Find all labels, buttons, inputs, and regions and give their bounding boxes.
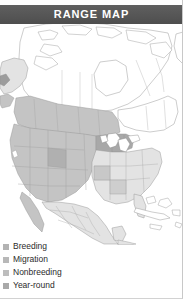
legend-swatch-breeding (3, 244, 9, 250)
range-map-graphic (0, 0, 183, 245)
legend-swatch-migration (3, 257, 9, 263)
legend-label-migration: Migration (13, 255, 48, 264)
page-title: RANGE MAP (54, 9, 129, 20)
legend-swatch-year-round (3, 283, 9, 289)
area-greenland-edge (174, 32, 183, 64)
map-legend: Breeding Migration Nonbreeding Year-roun… (0, 240, 183, 292)
legend-item-migration: Migration (3, 253, 183, 266)
range-map-panel: RANGE MAP Breeding Migration Nonbreeding… (0, 0, 183, 299)
legend-label-year-round: Year-round (13, 281, 55, 290)
range-map-header: RANGE MAP (0, 5, 183, 24)
legend-label-nonbreeding: Nonbreeding (13, 268, 62, 277)
legend-item-year-round: Year-round (3, 279, 183, 292)
area-mexico (42, 202, 126, 244)
area-northern-canada (19, 22, 172, 112)
legend-swatch-nonbreeding (3, 270, 9, 276)
north-america-map-svg (0, 0, 183, 245)
area-eastern-united-states (92, 148, 162, 218)
legend-item-breeding: Breeding (3, 240, 183, 253)
legend-label-breeding: Breeding (13, 242, 47, 251)
legend-item-nonbreeding: Nonbreeding (3, 266, 183, 279)
